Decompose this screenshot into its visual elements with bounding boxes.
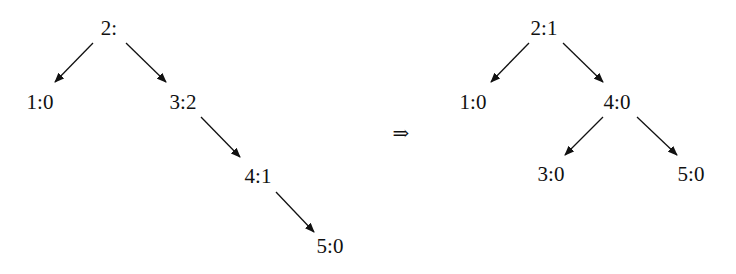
after-node-4: 4:0 — [604, 92, 631, 113]
edge-arrow-icon — [637, 117, 677, 155]
edge-arrow-icon — [55, 43, 93, 82]
before-node-2: 2: — [101, 18, 117, 39]
edge-arrow-icon — [276, 192, 314, 232]
edge-arrow-icon — [563, 43, 603, 82]
before-node-1: 1:0 — [27, 92, 54, 113]
tree-rotation-diagram: 2: 1:0 3:2 4:1 5:0 ⇒ 2:1 1:0 4:0 3:0 5:0 — [0, 0, 736, 274]
before-node-4: 4:1 — [245, 166, 272, 187]
edge-arrow-icon — [565, 117, 603, 155]
implies-arrow-icon: ⇒ — [393, 123, 410, 143]
edge-arrow-icon — [126, 43, 166, 82]
before-node-5: 5:0 — [317, 236, 344, 257]
after-node-5: 5:0 — [678, 164, 705, 185]
edge-arrow-icon — [201, 117, 240, 157]
before-node-3: 3:2 — [170, 92, 197, 113]
edge-arrow-icon — [491, 43, 529, 82]
after-node-3: 3:0 — [538, 164, 565, 185]
after-node-1: 1:0 — [460, 92, 487, 113]
after-node-2: 2:1 — [531, 18, 558, 39]
edges-layer — [0, 0, 736, 274]
